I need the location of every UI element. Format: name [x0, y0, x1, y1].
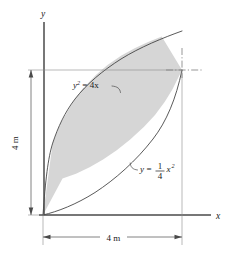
lower-eq-numerator: 1: [158, 161, 163, 171]
horizontal-dim-arrow-left: [43, 235, 51, 240]
x-axis-label: x: [215, 211, 221, 221]
lower-curve-equation-label: y = 1 4 x 2: [139, 161, 175, 181]
lower-eq-denominator: 4: [158, 171, 163, 181]
lower-eq-superscript: 2: [172, 162, 175, 169]
vertical-dim-arrow-top: [29, 70, 34, 78]
vertical-dimension-text: 4 m: [10, 136, 20, 150]
shaded-region-group: [43, 31, 182, 215]
horizontal-dimension-text: 4 m: [107, 233, 121, 243]
horizontal-dimension-group: 4 m: [43, 233, 182, 243]
leader-line-lower: [130, 163, 137, 170]
lower-eq-lhs: y: [139, 164, 144, 174]
upper-curve-equation-label: y2 = 4x: [72, 79, 99, 90]
vertical-dim-arrow-bottom: [29, 208, 34, 216]
shaded-region: [43, 37, 182, 215]
horizontal-dim-arrow-right: [175, 235, 183, 240]
vertical-dimension-group: 4 m: [10, 70, 33, 215]
lower-eq-variable: x: [166, 164, 171, 174]
lower-eq-equals: =: [147, 164, 152, 174]
y-axis-label: y: [40, 9, 46, 19]
upper-eq-rest: = 4x: [80, 80, 99, 90]
figure-canvas: y x 4 m: [0, 0, 245, 260]
figure-container: y x 4 m: [0, 0, 245, 260]
